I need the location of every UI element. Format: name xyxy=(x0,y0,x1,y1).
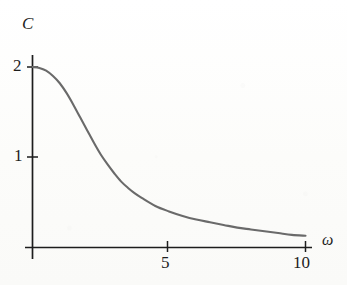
y-axis-label: C xyxy=(22,15,33,32)
y-tick-label-1: 1 xyxy=(14,147,23,164)
chart-figure: C ω 2 1 5 10 xyxy=(0,0,347,285)
x-tick-label-10: 10 xyxy=(293,254,310,271)
plot-canvas xyxy=(0,0,347,285)
x-axis-label: ω xyxy=(322,232,333,248)
x-tick-label-5: 5 xyxy=(161,254,170,271)
data-series-curve xyxy=(33,67,306,236)
y-tick-label-2: 2 xyxy=(13,57,22,74)
